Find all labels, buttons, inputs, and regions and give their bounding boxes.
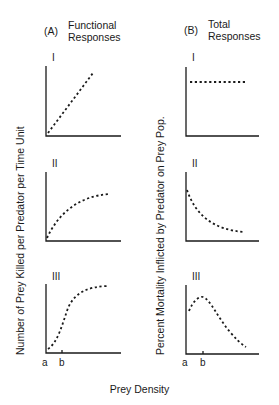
axes-b-I	[186, 67, 259, 136]
axes-b-II	[186, 172, 259, 241]
axes-a-I	[46, 66, 121, 136]
panel-label-a-I: I	[52, 52, 55, 63]
x-axis-label: Prey Density	[0, 383, 279, 395]
axes-a-III	[46, 284, 121, 353]
panel-label-a-III: III	[52, 271, 60, 282]
panel-label-b-III: III	[192, 271, 200, 282]
tick-label-b-right: b	[200, 357, 206, 368]
curve-total-type-2	[187, 190, 245, 232]
tick-label-a-right: a	[182, 357, 188, 368]
panel-label-b-I: I	[192, 52, 195, 63]
tick-label-b-left: b	[59, 357, 65, 368]
panel-label-b-II: II	[192, 158, 198, 169]
curve-total-type-3	[189, 297, 246, 347]
axes-a-II	[46, 172, 121, 241]
axes-b-III	[186, 285, 259, 354]
curve-functional-type-1	[48, 73, 93, 133]
curve-functional-type-3	[48, 286, 107, 349]
curve-functional-type-2	[47, 194, 110, 238]
tick-label-a-left: a	[42, 357, 48, 368]
response-plots: I II III I II III a b a b	[0, 0, 279, 405]
panel-label-a-II: II	[52, 158, 58, 169]
